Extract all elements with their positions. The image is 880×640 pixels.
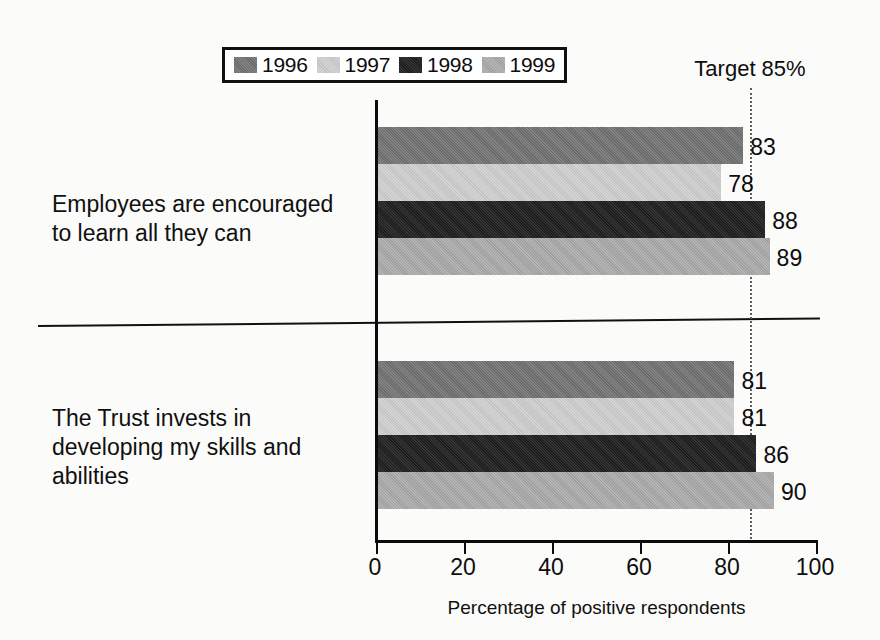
x-tick-20 (464, 543, 466, 554)
bar-1998-group0[interactable] (378, 201, 765, 238)
x-tick-80 (728, 543, 730, 554)
bar-value-1999-group0: 89 (777, 247, 803, 270)
legend-label-1997: 1997 (345, 54, 391, 75)
bar-1998-group1[interactable] (378, 435, 756, 472)
legend-entry-1997[interactable]: 1997 (317, 54, 391, 75)
bar-value-1997-group0: 78 (728, 173, 754, 196)
legend-swatch-1998 (399, 57, 422, 73)
legend-entry-1998[interactable]: 1998 (399, 54, 473, 75)
x-tick-label-100: 100 (796, 556, 834, 579)
bar-value-1998-group1: 86 (763, 444, 789, 467)
chart-legend: 1996199719981999 (222, 47, 567, 83)
x-tick-label-20: 20 (450, 556, 476, 579)
bar-1996-group0[interactable] (378, 127, 743, 164)
legend-entry-1999[interactable]: 1999 (482, 54, 556, 75)
x-axis-line (375, 540, 818, 543)
bar-1999-group0[interactable] (378, 238, 770, 275)
x-tick-40 (552, 543, 554, 554)
x-tick-60 (640, 543, 642, 554)
x-tick-label-0: 0 (369, 556, 382, 579)
bar-1996-group1[interactable] (378, 361, 734, 398)
category-label-trust-invests: The Trust invests in developing my skill… (52, 404, 352, 491)
legend-swatch-1997 (317, 57, 340, 73)
legend-label-1999: 1999 (510, 54, 556, 75)
bar-1997-group1[interactable] (378, 398, 734, 435)
plot-area: 8378888981818690 (375, 100, 818, 540)
x-tick-100 (816, 543, 818, 554)
bar-value-1998-group0: 88 (772, 210, 798, 233)
bar-value-1996-group0: 83 (750, 136, 776, 159)
bar-value-1999-group1: 90 (781, 481, 807, 504)
x-axis-title: Percentage of positive respondents (375, 598, 818, 617)
bar-value-1996-group1: 81 (741, 370, 767, 393)
x-tick-label-60: 60 (626, 556, 652, 579)
legend-swatch-1996 (234, 57, 257, 73)
legend-label-1998: 1998 (427, 54, 473, 75)
category-label-employees-encouraged: Employees are encouraged to learn all th… (52, 190, 352, 248)
target-annotation-label: Target 85% (694, 58, 805, 80)
bar-value-1997-group1: 81 (741, 407, 767, 430)
x-tick-label-40: 40 (538, 556, 564, 579)
legend-swatch-1999 (482, 57, 505, 73)
x-tick-label-80: 80 (714, 556, 740, 579)
bar-1997-group0[interactable] (378, 164, 721, 201)
legend-entry-1996[interactable]: 1996 (234, 54, 308, 75)
x-tick-0 (376, 543, 378, 554)
bar-1999-group1[interactable] (378, 472, 774, 509)
legend-label-1996: 1996 (262, 54, 308, 75)
